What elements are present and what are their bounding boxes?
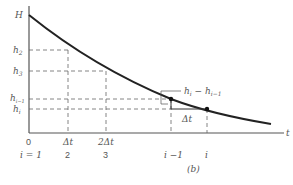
index-2: 2 bbox=[65, 150, 70, 160]
dashed-guides bbox=[29, 50, 207, 133]
figure-caption: (b) bbox=[187, 164, 200, 174]
y-tick-hi: hi bbox=[13, 104, 21, 115]
point-i bbox=[205, 107, 209, 111]
x-tick-dt: Δt bbox=[62, 137, 73, 147]
dt-annotation: Δt bbox=[181, 114, 192, 124]
point-i-minus-1 bbox=[169, 97, 173, 101]
index-3: 3 bbox=[103, 150, 108, 160]
y-tick-h2: h2 bbox=[13, 45, 23, 56]
y-tick-h3: h3 bbox=[13, 66, 23, 77]
diff-annotation: hi − hi−1 bbox=[184, 86, 222, 97]
decay-curve bbox=[29, 15, 271, 124]
diagram-canvas: t hi − hi−1 Δt H h2 h3 hi−1 hi 0 Δt 2Δt … bbox=[0, 0, 293, 185]
x-tick-2dt: 2Δt bbox=[97, 137, 114, 147]
x-axis-label: t bbox=[286, 128, 290, 138]
index-i-1: i −1 bbox=[164, 150, 183, 160]
index-i1: i = 1 bbox=[20, 150, 42, 160]
index-i: i bbox=[205, 150, 208, 160]
y-tick-hi-1: hi−1 bbox=[10, 93, 25, 104]
x-tick-0: 0 bbox=[26, 137, 31, 147]
y-tick-H: H bbox=[14, 10, 23, 20]
